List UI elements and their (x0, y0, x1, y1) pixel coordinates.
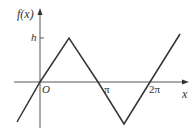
triangle-wave-curve (17, 34, 180, 124)
two-pi-label: 2π (149, 84, 160, 95)
origin-label: O (42, 84, 50, 95)
x-axis-label: x (182, 88, 187, 100)
y-axis-arrow-icon (38, 8, 43, 15)
x-axis-arrow-icon (182, 80, 189, 85)
peak-label: h (31, 32, 37, 43)
y-axis-label: f(x) (17, 8, 34, 20)
pi-label: π (104, 84, 110, 95)
